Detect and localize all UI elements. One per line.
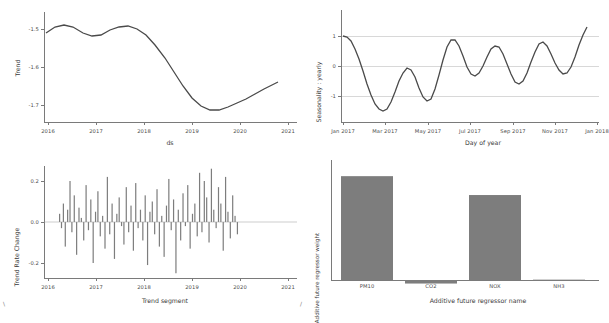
regressor-xticklabel: NH3 bbox=[553, 283, 564, 289]
rate-bar bbox=[107, 177, 108, 222]
rate-bar bbox=[194, 204, 195, 222]
rate-bar bbox=[161, 216, 162, 222]
rate-bar bbox=[97, 191, 98, 222]
rate-bar bbox=[237, 222, 238, 234]
rate-bar bbox=[213, 210, 214, 222]
rate-bar bbox=[197, 222, 198, 236]
rate-bar bbox=[69, 181, 70, 222]
rate-bar bbox=[59, 214, 60, 222]
rate-bar bbox=[152, 202, 153, 223]
rate-bar bbox=[128, 222, 129, 232]
rate-bar bbox=[126, 187, 127, 222]
rate-bar bbox=[156, 189, 157, 222]
rate-bar bbox=[63, 204, 64, 222]
panel-trend: Trend ds -1.5 -1.6 -1.7 2016 2017 2018 2… bbox=[0, 0, 303, 152]
rate-bar bbox=[104, 222, 105, 249]
rate-bar bbox=[178, 210, 179, 222]
rate-bar bbox=[133, 222, 134, 251]
rate-bar bbox=[185, 222, 186, 226]
regressor-bar bbox=[469, 195, 521, 280]
seasonality-line-svg bbox=[303, 0, 606, 152]
rate-bar bbox=[130, 206, 131, 222]
rate-bar bbox=[211, 169, 212, 222]
rate-bar bbox=[149, 212, 150, 222]
rate-bar bbox=[67, 210, 68, 222]
corner-mark-bottom-mid: / bbox=[300, 300, 302, 307]
rate-bar bbox=[154, 222, 155, 234]
panel-trend-rate-change: Trend Rate Change Trend segment 0.2 0.0 … bbox=[0, 152, 303, 317]
corner-mark-bottom-left: \ bbox=[3, 300, 5, 307]
rate-bar bbox=[206, 197, 207, 222]
rate-bar bbox=[232, 195, 233, 222]
rate-bar bbox=[116, 214, 117, 222]
rate-bar bbox=[166, 206, 167, 222]
rate-bar bbox=[95, 212, 96, 222]
rate-bar bbox=[102, 216, 103, 222]
rate-bar bbox=[114, 222, 115, 259]
rate-bar bbox=[223, 222, 224, 251]
rate-bar bbox=[199, 173, 200, 222]
rate-bar bbox=[180, 222, 181, 240]
rate-bar bbox=[119, 197, 120, 222]
rate-bar bbox=[230, 222, 231, 238]
rate-bar bbox=[138, 222, 139, 228]
rate-bar bbox=[109, 222, 110, 234]
rate-bar bbox=[164, 222, 165, 257]
panel-yearly-seasonality: Seasonality : yearly Day of year 1 0 -1 … bbox=[303, 0, 606, 152]
seasonality-line bbox=[343, 27, 587, 111]
rate-bar bbox=[112, 204, 113, 222]
rate-bar bbox=[192, 214, 193, 222]
rate-bar bbox=[173, 199, 174, 222]
rate-bar bbox=[234, 216, 235, 222]
regressor-xticklabel: NOX bbox=[489, 283, 501, 289]
rate-bar bbox=[140, 210, 141, 222]
rate-bar bbox=[83, 222, 84, 240]
regressor-bar bbox=[533, 280, 585, 281]
rate-bar bbox=[142, 222, 143, 240]
trend-line-svg bbox=[0, 0, 303, 152]
rate-bar bbox=[81, 218, 82, 222]
rate-bar bbox=[121, 222, 122, 226]
rate-bar bbox=[147, 222, 148, 265]
rate-bar bbox=[85, 185, 86, 222]
rate-bar bbox=[145, 195, 146, 222]
rate-bar bbox=[78, 208, 79, 222]
rate-bar bbox=[100, 222, 101, 236]
rate-bar bbox=[216, 222, 217, 228]
regressor-bar bbox=[341, 176, 393, 280]
rate-bar bbox=[187, 185, 188, 222]
regressor-bars-svg bbox=[303, 152, 606, 317]
rate-bars-svg bbox=[0, 152, 303, 317]
rate-bar bbox=[90, 199, 91, 222]
rate-bar bbox=[123, 222, 124, 245]
rate-bar bbox=[171, 222, 172, 230]
rate-bar bbox=[175, 222, 176, 273]
rate-bar bbox=[88, 222, 89, 230]
rate-bar bbox=[135, 183, 136, 222]
rate-bar bbox=[208, 222, 209, 243]
rate-bar bbox=[61, 222, 62, 228]
rate-bar bbox=[225, 177, 226, 222]
rate-bar bbox=[65, 222, 66, 247]
rate-bar bbox=[218, 187, 219, 222]
rate-bar bbox=[220, 204, 221, 222]
trend-line bbox=[46, 25, 278, 110]
rate-bar bbox=[227, 212, 228, 222]
rate-bar bbox=[190, 222, 191, 249]
rate-bar bbox=[201, 222, 202, 232]
regressor-xticklabel: CO2 bbox=[425, 283, 436, 289]
rate-bar bbox=[168, 179, 169, 222]
rate-bar bbox=[204, 181, 205, 222]
rate-bar bbox=[74, 195, 75, 222]
rate-bar bbox=[159, 222, 160, 247]
regressor-xticklabel: PM10 bbox=[360, 283, 375, 289]
rate-bar bbox=[93, 222, 94, 263]
rate-bar bbox=[76, 222, 77, 255]
rate-bar bbox=[182, 193, 183, 222]
rate-bar bbox=[71, 222, 72, 232]
panel-additive-future-regressor: Additive future regressor weight Additiv… bbox=[303, 152, 606, 317]
